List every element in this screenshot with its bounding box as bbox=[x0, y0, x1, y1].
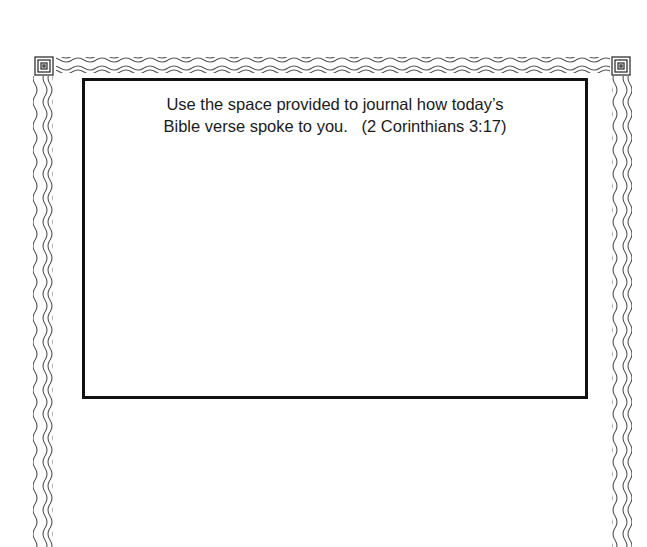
spiral-corner-icon-right bbox=[612, 57, 630, 75]
prompt-line-2: Bible verse spoke to you. (2 Corinthians… bbox=[85, 115, 585, 137]
right-wave-band bbox=[612, 76, 632, 547]
worksheet-page: Use the space provided to journal how to… bbox=[0, 0, 647, 547]
spacer bbox=[348, 117, 362, 135]
prompt-line-1: Use the space provided to journal how to… bbox=[85, 93, 585, 115]
scripture-reference: (2 Corinthians 3:17) bbox=[362, 117, 507, 135]
prompt-line-2-main: Bible verse spoke to you. bbox=[163, 117, 347, 135]
journal-writing-area[interactable]: Use the space provided to journal how to… bbox=[82, 78, 588, 399]
top-wave-band bbox=[56, 57, 610, 73]
left-wave-band bbox=[33, 76, 53, 547]
spiral-corner-icon-left bbox=[35, 57, 53, 75]
journal-prompt: Use the space provided to journal how to… bbox=[85, 93, 585, 137]
